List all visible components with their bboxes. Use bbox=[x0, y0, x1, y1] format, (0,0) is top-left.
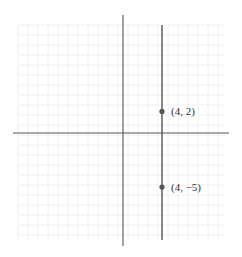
data-point bbox=[159, 109, 164, 114]
coordinate-plane: (4, 2)(4, −5) bbox=[0, 0, 242, 257]
point-label: (4, 2) bbox=[171, 105, 195, 118]
data-points: (4, 2)(4, −5) bbox=[159, 105, 201, 194]
point-label: (4, −5) bbox=[171, 181, 201, 194]
data-point bbox=[159, 184, 164, 189]
